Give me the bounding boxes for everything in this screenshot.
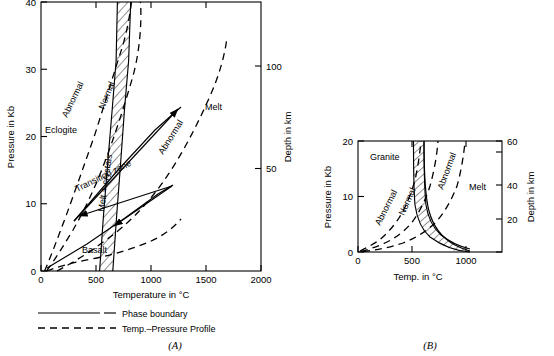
panel-a-y2tick-100: 100 bbox=[266, 61, 282, 72]
panel-b-ytick-10: 10 bbox=[342, 191, 353, 202]
label-eclogite-a: Eclogite bbox=[45, 125, 77, 135]
panel-a: 0 10 20 30 40 Pressure in Kb 0 500 1000 … bbox=[5, 0, 293, 300]
panel-b-yaxis-left-title: Pressure in Kb bbox=[322, 166, 333, 228]
panel-b-y-ticks bbox=[358, 141, 364, 252]
panel-a-label: (A) bbox=[168, 340, 182, 352]
panel-a-ytick-40: 40 bbox=[25, 0, 36, 8]
panel-a-yaxis-left-title: Pressure in Kb bbox=[5, 106, 16, 168]
legend-temp-pressure-label: Temp.–Pressure Profile bbox=[122, 324, 216, 334]
panel-b-xtick-1000: 1000 bbox=[455, 255, 476, 266]
curve-abnormal-right-a bbox=[57, 37, 227, 271]
panel-a-y2-ticks bbox=[255, 66, 261, 169]
panel-a-xaxis-title: Temperature in °C bbox=[113, 289, 190, 300]
legend-phase-boundary-label: Phase boundary bbox=[122, 309, 188, 319]
label-melt-b: Melt bbox=[469, 182, 487, 192]
panel-b-label: (B) bbox=[423, 340, 437, 352]
panel-a-xtick-500: 500 bbox=[88, 274, 104, 285]
panel-a-y2tick-50: 50 bbox=[266, 163, 277, 174]
panel-b-y2-ticks bbox=[496, 141, 502, 252]
panel-b: 0 10 20 Pressure in Kb 0 500 1000 Temp. … bbox=[322, 136, 536, 282]
panel-b-y2tick-40: 40 bbox=[507, 180, 518, 191]
panel-a-xtick-1500: 1500 bbox=[195, 274, 216, 285]
figure-svg: 0 10 20 30 40 Pressure in Kb 0 500 1000 … bbox=[0, 0, 554, 356]
panel-a-ytick-30: 30 bbox=[25, 64, 36, 75]
figure-container: 0 10 20 30 40 Pressure in Kb 0 500 1000 … bbox=[0, 0, 554, 356]
panel-a-ytick-10: 10 bbox=[25, 198, 36, 209]
panel-b-ytick-0: 0 bbox=[348, 247, 353, 258]
panel-a-top-ticks bbox=[96, 2, 206, 8]
legend: Phase boundary Temp.–Pressure Profile bbox=[38, 309, 216, 334]
panel-b-ytick-20: 20 bbox=[342, 136, 353, 147]
label-abnormal-right-b: Abnormal bbox=[435, 151, 458, 191]
label-abnormal-left-b: Abnormal bbox=[373, 188, 399, 227]
label-basalt-a: Basalt bbox=[82, 245, 108, 255]
panel-a-ytick-20: 20 bbox=[25, 131, 36, 142]
transition-zone-arrow-basalt-a bbox=[114, 186, 172, 226]
panel-b-y2tick-20: 20 bbox=[507, 214, 518, 225]
label-abnormal-left-a: Abnormal bbox=[60, 80, 86, 119]
label-granite-b: Granite bbox=[370, 152, 400, 162]
panel-a-xtick-0: 0 bbox=[38, 274, 43, 285]
panel-b-xtick-500: 500 bbox=[404, 255, 420, 266]
panel-a-x-ticks bbox=[41, 265, 261, 271]
panel-a-ytick-0: 0 bbox=[31, 266, 36, 277]
panel-b-xtick-0: 0 bbox=[355, 255, 360, 266]
panel-b-yaxis-right-title: Depth in km bbox=[525, 172, 536, 223]
label-melt-a: Melt bbox=[205, 102, 223, 112]
panel-a-xtick-1000: 1000 bbox=[140, 274, 161, 285]
panel-b-xaxis-title: Temp. in °C bbox=[393, 271, 442, 282]
panel-a-yaxis-right-title: Depth in km bbox=[282, 112, 293, 163]
panel-a-xtick-2000: 2000 bbox=[250, 274, 271, 285]
panel-a-y-ticks bbox=[41, 2, 47, 271]
label-abnormal-right-a: Abnormal bbox=[156, 118, 185, 156]
panel-b-y2tick-60: 60 bbox=[507, 136, 518, 147]
panel-a-frame bbox=[41, 2, 261, 271]
